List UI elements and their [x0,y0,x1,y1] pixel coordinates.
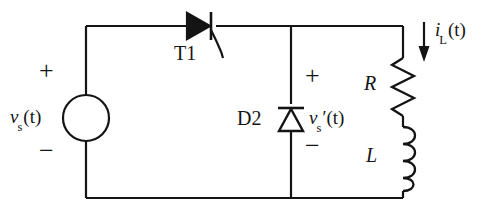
resistor-zigzag [392,58,414,116]
thyristor-label: T1 [174,43,196,63]
diode-label: D2 [237,108,261,128]
source-voltage-arg: (t) [23,106,41,127]
output-voltage-arg: (t) [326,107,344,128]
circuit-diagram: + − vs(t) T1 D2 + − vs′(t) R L iL(t) [0,0,489,210]
output-minus-sign: − [305,133,320,159]
current-arrow-head [419,46,430,62]
diode-triangle [279,109,303,131]
source-plus-sign: + [39,58,54,84]
load-current-arg: (t) [448,19,466,40]
inductor-coils [403,127,415,191]
inductor-label: L [366,145,377,165]
thyristor-gate-lead [211,30,223,58]
source-voltage-subscript: s [17,120,22,134]
output-voltage-prime: ′ [321,107,325,128]
load-current-subscript: L [439,33,447,47]
source-voltage-label: vs(t) [10,107,41,130]
circuit-schematic-svg [0,0,489,210]
thyristor-anode-triangle [187,13,210,39]
resistor-label: R [364,73,376,93]
output-plus-sign: + [305,63,320,89]
output-voltage-label: vs′(t) [309,108,344,131]
load-current-label: iL(t) [435,20,466,43]
source-minus-sign: − [39,138,54,164]
voltage-source-circle [63,95,109,141]
